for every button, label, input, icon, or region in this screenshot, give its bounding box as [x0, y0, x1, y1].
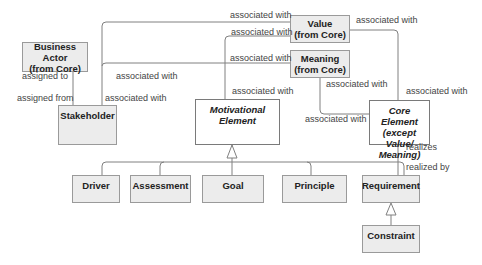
label-meaning-assoc-left: associated with [230, 53, 292, 63]
node-stakeholder[interactable]: Stakeholder [58, 105, 117, 145]
node-assessment-label: Assessment [133, 176, 189, 191]
node-business-actor[interactable]: Business Actor (from Core) [22, 42, 88, 72]
node-meaning[interactable]: Meaning (from Core) [290, 50, 350, 78]
node-meaning-line1: Meaning [301, 53, 340, 64]
label-value-assoc-mid: associated with [231, 27, 293, 37]
node-driver-label: Driver [82, 176, 109, 191]
label-stakeholder-assoc-2: associated with [105, 93, 167, 103]
node-motivational-element-line2: Element [219, 115, 256, 126]
label-realizes: realizes [406, 142, 437, 152]
node-business-actor-line1: Business Actor [23, 41, 87, 63]
node-core-element[interactable]: Core Element (except Value/ Meaning) [369, 100, 430, 145]
node-motivational-element-line1: Motivational [210, 100, 265, 115]
node-constraint[interactable]: Constraint [362, 225, 420, 253]
node-principle[interactable]: Principle [282, 175, 347, 203]
node-core-element-line1: Core Element [370, 101, 429, 127]
label-realized-by: realized by [406, 162, 450, 172]
node-stakeholder-label: Stakeholder [60, 106, 114, 121]
label-assigned-to: assigned to [22, 71, 68, 81]
label-value-assoc-top: associated with [230, 10, 292, 20]
label-assigned-from: assigned from [17, 93, 74, 103]
label-core-assoc-right: associated with [406, 86, 468, 96]
node-driver[interactable]: Driver [72, 175, 120, 203]
node-goal[interactable]: Goal [202, 175, 264, 203]
node-constraint-label: Constraint [367, 226, 415, 241]
node-value[interactable]: Value (from Core) [290, 15, 350, 43]
label-motivational-assoc: associated with [232, 86, 294, 96]
node-principle-label: Principle [294, 176, 334, 191]
node-assessment[interactable]: Assessment [130, 175, 191, 203]
node-value-line1: Value [308, 18, 333, 29]
node-requirement-label: Requirement [362, 176, 420, 191]
node-motivational-element[interactable]: Motivational Element [195, 99, 280, 145]
label-stakeholder-assoc-1: associated with [116, 71, 178, 81]
label-core-assoc-left: associated with [305, 114, 367, 124]
node-requirement[interactable]: Requirement [362, 175, 420, 203]
node-goal-label: Goal [222, 176, 243, 191]
node-value-line2: (from Core) [294, 29, 346, 40]
label-meaning-assoc-below: associated with [326, 79, 388, 89]
node-meaning-line2: (from Core) [294, 64, 346, 75]
label-value-assoc-right: associated with [356, 15, 418, 25]
